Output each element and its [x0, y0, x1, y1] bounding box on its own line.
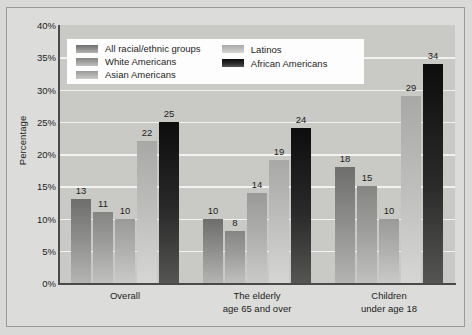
legend-swatch — [76, 45, 98, 53]
legend-label: White Americans — [105, 56, 176, 67]
y-axis-tick-label: 40% — [14, 20, 56, 31]
bar[interactable]: 10 — [379, 219, 399, 284]
legend-item[interactable]: White Americans — [76, 56, 222, 67]
legend-swatch — [76, 58, 98, 66]
x-axis-tick-label-line: under age 18 — [323, 303, 455, 316]
bar[interactable]: 8 — [225, 231, 245, 283]
y-axis-tick-label: 15% — [14, 181, 56, 192]
x-axis-tick-label-line: The elderly — [191, 290, 323, 303]
bar[interactable]: 13 — [71, 199, 91, 283]
x-axis-tick-label-line: Overall — [59, 290, 191, 303]
y-axis-tick-label: 20% — [14, 149, 56, 160]
chart-legend: All racial/ethnic groupsWhite AmericansA… — [67, 39, 364, 84]
x-axis-tick-label-line: age 65 and over — [191, 303, 323, 316]
legend-swatch — [76, 71, 98, 79]
y-axis-tick-label: 30% — [14, 84, 56, 95]
bar-value-label: 19 — [274, 146, 285, 157]
bar-slot: 34 — [423, 25, 443, 283]
bar-value-label: 29 — [406, 82, 417, 93]
bar-slot: 10 — [379, 25, 399, 283]
legend-label: Asian Americans — [105, 69, 176, 80]
y-axis-tick-labels: 40%35%30%25%20%15%10%5%0% — [0, 0, 56, 335]
bar-value-label: 25 — [164, 108, 175, 119]
bar-value-label: 10 — [208, 205, 219, 216]
bar-value-label: 8 — [232, 217, 237, 228]
legend-item[interactable]: All racial/ethnic groups — [76, 43, 222, 54]
bar[interactable]: 22 — [137, 141, 157, 283]
x-axis-tick-label: The elderlyage 65 and over — [191, 290, 323, 315]
y-axis-tick-label: 5% — [14, 245, 56, 256]
bar-value-label: 34 — [428, 50, 439, 61]
bar[interactable]: 25 — [159, 122, 179, 283]
bar-value-label: 22 — [142, 127, 153, 138]
bar-value-label: 11 — [98, 198, 108, 209]
legend-label: Latinos — [251, 44, 282, 55]
x-axis-line — [58, 283, 456, 285]
legend-swatch — [222, 59, 244, 67]
y-axis-tick-label: 35% — [14, 52, 56, 63]
bar[interactable]: 29 — [401, 96, 421, 283]
bar-value-label: 18 — [340, 153, 351, 164]
bar[interactable]: 11 — [93, 212, 113, 283]
chart-figure: Percentage 40%35%30%25%20%15%10%5%0% 131… — [0, 0, 472, 335]
x-axis-tick-label: Overall — [59, 290, 191, 303]
legend-item[interactable]: Latinos — [222, 43, 356, 55]
legend-item[interactable]: African Americans — [222, 57, 356, 69]
bar-value-label: 10 — [120, 205, 131, 216]
bar[interactable]: 24 — [291, 128, 311, 283]
legend-item[interactable]: Asian Americans — [76, 69, 222, 80]
bar[interactable]: 19 — [269, 160, 289, 283]
x-axis-tick-label: Childrenunder age 18 — [323, 290, 455, 315]
legend-swatch — [222, 45, 244, 53]
bar-value-label: 24 — [296, 114, 307, 125]
bar[interactable]: 15 — [357, 186, 377, 283]
bar[interactable]: 18 — [335, 167, 355, 283]
bar[interactable]: 34 — [423, 64, 443, 283]
bar[interactable]: 10 — [203, 219, 223, 284]
y-axis-tick-label: 0% — [14, 278, 56, 289]
bar[interactable]: 14 — [247, 193, 267, 283]
y-axis-line — [58, 25, 60, 284]
bar-value-label: 14 — [252, 179, 263, 190]
bar-value-label: 15 — [362, 172, 373, 183]
bar[interactable]: 10 — [115, 219, 135, 284]
y-axis-tick-label: 25% — [14, 116, 56, 127]
legend-label: All racial/ethnic groups — [105, 43, 201, 54]
bar-value-label: 10 — [384, 205, 395, 216]
y-axis-tick-label: 10% — [14, 213, 56, 224]
legend-label: African Americans — [251, 58, 328, 69]
x-axis-tick-label-line: Children — [323, 290, 455, 303]
legend-column-2: LatinosAfrican Americans — [222, 43, 356, 80]
legend-column-1: All racial/ethnic groupsWhite AmericansA… — [76, 43, 222, 80]
bar-slot: 29 — [401, 25, 421, 283]
bar-value-label: 13 — [76, 185, 87, 196]
